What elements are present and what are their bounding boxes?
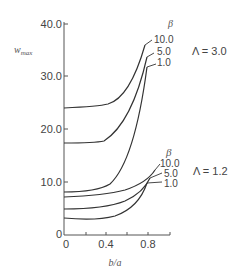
legend-beta-5-top: 5.0 (157, 46, 171, 57)
y-tick-label: 10.0 (41, 176, 62, 188)
y-tick-label: 20.0 (41, 123, 62, 135)
y-axis-label: wmax (14, 44, 33, 57)
x-tick-label: 0 (63, 238, 69, 250)
lambda-label-bottom: Λ = 1.2 (193, 165, 228, 177)
y-tick-label: 30.0 (41, 70, 62, 82)
x-tick-label: 0.8 (140, 238, 155, 250)
series-group-lambda-12 (64, 170, 155, 219)
x-axis-label: b/a (109, 257, 122, 268)
curve-lambda3-beta10 (64, 45, 145, 108)
curve-lambda12-beta1 (64, 183, 147, 219)
y-tick-label: 40.0 (41, 18, 62, 30)
beta-label-bottom: β (165, 146, 172, 158)
lambda-label-top: Λ = 3.0 (192, 45, 227, 57)
legend-beta-1-top: 1.0 (157, 57, 171, 68)
x-tick-label: 0.4 (98, 238, 113, 250)
chart: 40.0 30.0 20.0 10.0 0 0 0.4 0.8 wmax b/a… (0, 0, 238, 276)
y-tick-label: 0 (56, 228, 62, 240)
legend-beta-10-top: 10.0 (154, 34, 174, 45)
series-group-lambda-3 (64, 45, 147, 192)
curve-lambda12-beta10 (64, 170, 155, 197)
legend-beta-1-bottom: 1.0 (164, 178, 178, 189)
x-axis (64, 232, 170, 235)
curve-lambda3-beta5 (64, 57, 147, 143)
y-axis (64, 22, 68, 235)
beta-label-top: β (167, 18, 173, 29)
curve-lambda3-beta1 (64, 67, 147, 192)
